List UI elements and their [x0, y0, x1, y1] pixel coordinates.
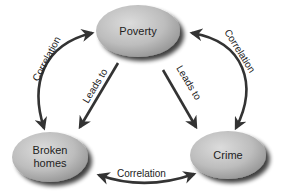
node-label-broken-homes-line2: homes — [33, 157, 67, 169]
correlation-arrow-bottom: Correlation — [99, 168, 194, 183]
edge-label-correlation-bottom: Correlation — [117, 168, 166, 179]
node-label-poverty: Poverty — [119, 25, 157, 37]
correlation-arrow-right: Correlation — [192, 27, 258, 128]
edge-label-correlation-right: Correlation — [222, 27, 257, 74]
node-label-broken-homes-line1: Broken — [33, 144, 68, 156]
correlation-arrow-left: Correlation — [30, 33, 92, 128]
diagram-canvas: Correlation Correlation Correlation Lead… — [0, 0, 282, 194]
leads-to-arrow-crime: Leads to — [163, 63, 204, 127]
edge-label-correlation-left: Correlation — [30, 35, 63, 83]
node-crime: Crime — [190, 131, 266, 179]
node-label-crime: Crime — [213, 149, 242, 161]
node-broken-homes: Broken homes — [12, 132, 88, 182]
node-poverty: Poverty — [96, 5, 180, 57]
leads-to-arrow-broken-homes: Leads to — [80, 63, 118, 127]
